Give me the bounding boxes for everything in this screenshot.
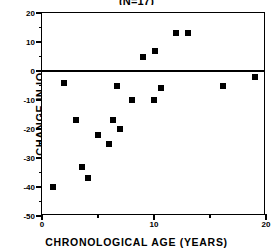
y-axis-tick-label: -50 [23,212,35,221]
data-point [85,175,91,181]
data-point [61,80,67,86]
y-axis-label-wrap: CHANGE IN IQ [0,12,16,215]
data-point [151,97,157,103]
y-axis-tick [36,186,42,187]
y-axis-minor-tick [39,114,43,115]
y-axis-minor-tick [39,172,43,173]
chart-title: (N=17) [0,0,273,5]
y-axis-minor-tick [39,56,43,57]
y-axis-tick-label: -10 [23,96,35,105]
data-point [95,132,101,138]
x-axis-minor-tick [97,214,98,218]
y-axis-minor-tick [39,201,43,202]
y-axis-tick [36,99,42,100]
zero-reference-line [42,70,264,72]
y-axis-tick-label: 10 [26,38,35,47]
y-axis-minor-tick [39,27,43,28]
x-axis-tick-label: 0 [40,220,44,229]
y-axis-tick-label: 20 [26,9,35,18]
data-point [73,117,79,123]
data-point [185,30,191,36]
data-point [173,30,179,36]
y-axis-minor-tick [39,85,43,86]
y-axis-tick-label: -20 [23,125,35,134]
data-point [129,97,135,103]
y-axis-tick-label: -30 [23,154,35,163]
data-point [220,83,226,89]
data-point [110,117,116,123]
data-point [114,83,120,89]
x-axis-label: CHRONOLOGICAL AGE (YEARS) [0,236,273,248]
data-point [152,48,158,54]
plot-area: 20100-10-20-30-40-50 01020 [41,12,265,215]
y-axis-tick-label: -40 [23,183,35,192]
data-point [252,74,258,80]
y-axis-tick [36,12,42,13]
data-point [117,126,123,132]
x-axis-tick-label: 20 [262,220,271,229]
data-point [106,141,112,147]
y-axis-tick [36,128,42,129]
chart-figure: (N=17) CHANGE IN IQ 20100-10-20-30-40-50… [0,0,273,252]
x-axis-tick-label: 10 [150,220,159,229]
x-axis-minor-tick [209,214,210,218]
y-axis-minor-tick [39,143,43,144]
data-point [50,184,56,190]
data-point [140,54,146,60]
y-axis-tick-label: 0 [31,67,35,76]
y-axis-tick [36,41,42,42]
data-point [158,85,164,91]
y-axis-tick [36,70,42,71]
y-axis-tick [36,157,42,158]
data-point [79,164,85,170]
